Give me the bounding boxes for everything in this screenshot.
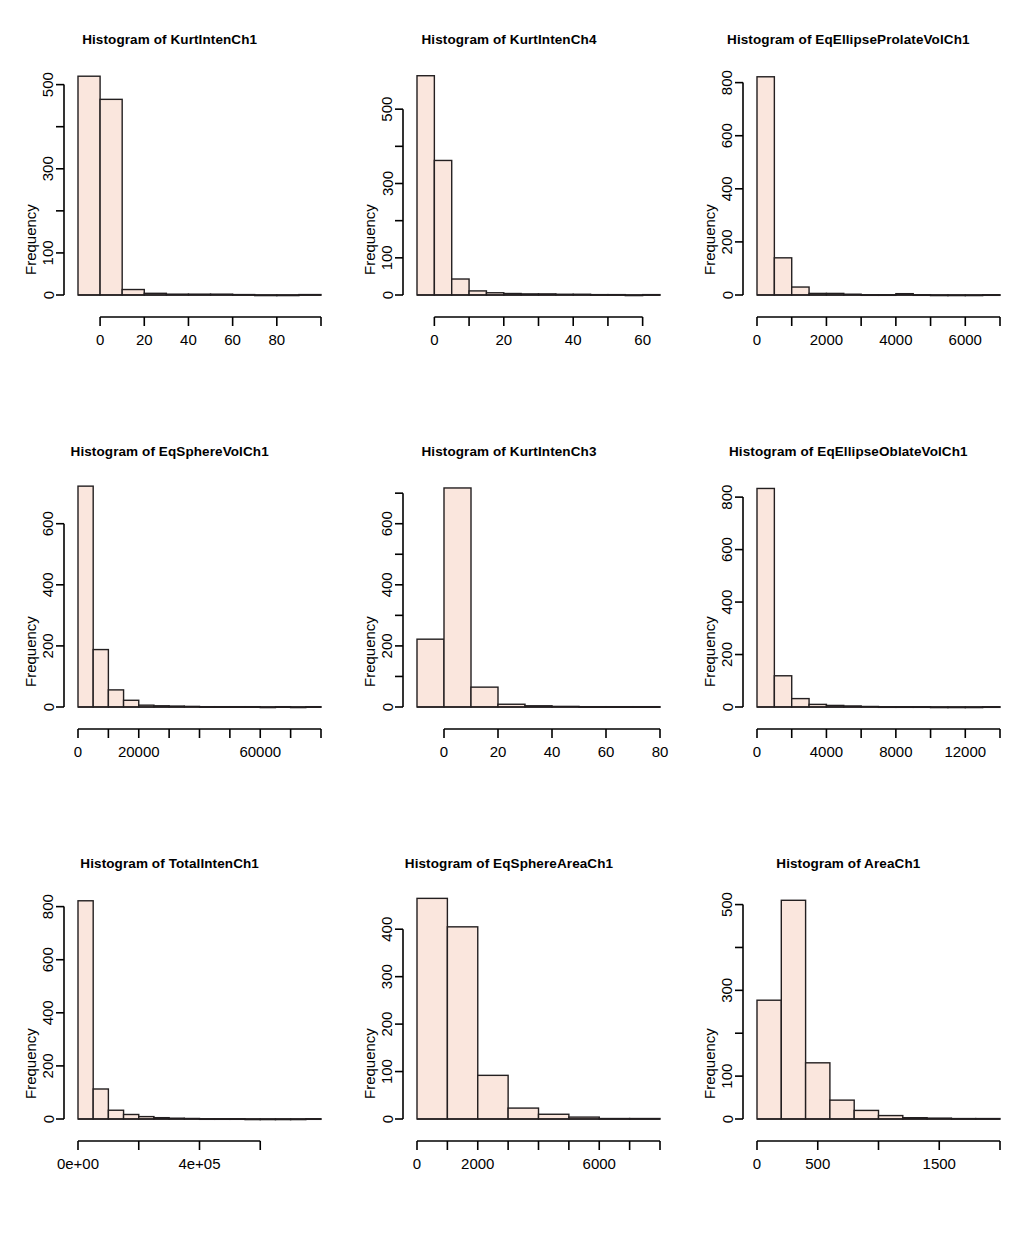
y-axis-tick-label: 400 (379, 572, 396, 597)
y-axis-tick-label: 200 (379, 633, 396, 658)
x-axis-tick-label: 40 (180, 331, 197, 348)
y-axis-tick-label: 800 (718, 70, 735, 95)
y-axis-tick-label: 0 (40, 1115, 57, 1123)
y-axis-tick-label: 600 (40, 511, 57, 536)
x-axis-tick-label: 0 (431, 331, 439, 348)
x-axis-tick-label: 2000 (809, 331, 842, 348)
y-axis-tick-label: 200 (40, 633, 57, 658)
plot-area: 01003005000204060 (339, 0, 678, 412)
histogram-bar (508, 1108, 538, 1119)
y-axis-tick-label: 500 (718, 892, 735, 917)
x-axis-tick-label: 20 (136, 331, 153, 348)
x-axis-tick-label: 12000 (944, 743, 986, 760)
histogram-bar (108, 690, 123, 707)
histogram-panel-AreaCh1: Histogram of AreaCh1Frequency01003005000… (679, 824, 1018, 1236)
y-axis-tick-label: 0 (379, 703, 396, 711)
histogram-panel-EqSphereAreaCh1: Histogram of EqSphereAreaCh1Frequency010… (339, 824, 678, 1236)
histogram-panel-EqSphereVolCh1: Histogram of EqSphereVolCh1Frequency0200… (0, 412, 339, 824)
bars-group (417, 488, 660, 707)
bars-group (78, 486, 321, 707)
y-axis-tick-label: 100 (379, 1059, 396, 1084)
histogram-bar (122, 290, 144, 295)
histogram-panel-KurtIntenCh4: Histogram of KurtIntenCh4Frequency010030… (339, 0, 678, 412)
y-axis-tick-label: 200 (718, 229, 735, 254)
histogram-bar (417, 639, 444, 707)
histogram-bar (78, 901, 93, 1119)
histogram-bar (854, 1110, 878, 1119)
plot-area: 02004006008000200040006000 (679, 0, 1018, 412)
x-axis-tick-label: 80 (652, 743, 669, 760)
histogram-bar (478, 1075, 508, 1119)
x-axis-tick-label: 0 (440, 743, 448, 760)
bars-group (417, 76, 660, 296)
plot-area: 0100200300400020006000 (339, 824, 678, 1236)
histogram-panel-KurtIntenCh1: Histogram of KurtIntenCh1Frequency010030… (0, 0, 339, 412)
y-axis-tick-label: 200 (718, 642, 735, 667)
bars-group (78, 76, 321, 295)
histogram-bar (774, 258, 791, 295)
y-axis-tick-label: 400 (40, 572, 57, 597)
plot-area: 020040060002000060000 (0, 412, 339, 824)
histogram-bar (805, 1063, 829, 1119)
y-axis-tick-label: 400 (40, 1000, 57, 1025)
histogram-bar (100, 99, 122, 295)
histogram-grid: Histogram of KurtIntenCh1Frequency010030… (0, 0, 1018, 1236)
y-axis-tick-label: 300 (40, 156, 57, 181)
histogram-bar (448, 927, 478, 1119)
histogram-bar (791, 699, 808, 707)
x-axis-tick-label: 60 (224, 331, 241, 348)
histogram-bar (774, 676, 791, 707)
y-axis-tick-label: 600 (379, 511, 396, 536)
x-axis-tick-label: 60000 (239, 743, 281, 760)
x-axis-tick-label: 1500 (922, 1155, 955, 1172)
x-axis-tick-label: 20 (490, 743, 507, 760)
y-axis-tick-label: 0 (40, 703, 57, 711)
y-axis-tick-label: 100 (718, 1064, 735, 1089)
plot-area: 0100300500020406080 (0, 0, 339, 412)
y-axis-tick-label: 100 (379, 245, 396, 270)
x-axis-tick-label: 8000 (879, 743, 912, 760)
y-axis-tick-label: 600 (40, 947, 57, 972)
histogram-panel-EqEllipseProlateVolCh1: Histogram of EqEllipseProlateVolCh1Frequ… (679, 0, 1018, 412)
plot-area: 020040060080004000800012000 (679, 412, 1018, 824)
histogram-panel-TotalIntenCh1: Histogram of TotalIntenCh1Frequency02004… (0, 824, 339, 1236)
x-axis-tick-label: 20000 (118, 743, 160, 760)
y-axis-tick-label: 0 (40, 291, 57, 299)
y-axis-tick-label: 0 (379, 291, 396, 299)
y-axis-tick-label: 400 (718, 590, 735, 615)
plot-area: 010030050005001500 (679, 824, 1018, 1236)
x-axis-tick-label: 4000 (879, 331, 912, 348)
x-axis-tick-label: 40 (544, 743, 561, 760)
histogram-bar (757, 77, 774, 295)
histogram-bar (417, 898, 447, 1119)
x-axis-tick-label: 6000 (583, 1155, 616, 1172)
bars-group (78, 901, 321, 1120)
x-axis-tick-label: 0 (96, 331, 104, 348)
histogram-bar (417, 76, 434, 295)
bars-group (757, 900, 1000, 1119)
y-axis-tick-label: 0 (718, 703, 735, 711)
histogram-bar (471, 687, 498, 707)
y-axis-tick-label: 600 (718, 123, 735, 148)
x-axis-tick-label: 0 (752, 743, 760, 760)
histogram-panel-EqEllipseOblateVolCh1: Histogram of EqEllipseOblateVolCh1Freque… (679, 412, 1018, 824)
histogram-bar (781, 900, 805, 1119)
bars-group (417, 898, 660, 1119)
histogram-bar (757, 488, 774, 707)
histogram-bar (78, 486, 93, 707)
x-axis-tick-label: 0 (413, 1155, 421, 1172)
histogram-bar (93, 650, 108, 707)
histogram-bar (78, 76, 100, 295)
histogram-bar (757, 1000, 781, 1119)
y-axis-tick-label: 300 (718, 978, 735, 1003)
bars-group (757, 488, 1000, 707)
histogram-bar (791, 287, 808, 295)
x-axis-tick-label: 60 (635, 331, 652, 348)
y-axis-tick-label: 100 (40, 240, 57, 265)
x-axis-tick-label: 0 (752, 331, 760, 348)
x-axis-tick-label: 0 (752, 1155, 760, 1172)
plot-area: 02004006008000e+004e+05 (0, 824, 339, 1236)
y-axis-tick-label: 200 (40, 1053, 57, 1078)
y-axis-tick-label: 200 (379, 1012, 396, 1037)
histogram-bar (108, 1110, 123, 1119)
